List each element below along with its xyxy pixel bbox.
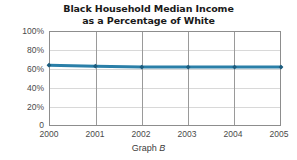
y-tick-label-80: 80% — [0, 46, 44, 55]
gridline-y-40 — [50, 88, 280, 89]
x-tick-label-2001: 2001 — [75, 129, 115, 139]
gridline-y-20 — [50, 107, 280, 108]
y-tick-label-40: 40% — [0, 84, 44, 93]
graph-caption-prefix: Graph — [132, 143, 157, 153]
gridline-x-2004 — [234, 32, 235, 125]
chart-title-line-1: Black Household Median Income — [0, 3, 297, 15]
y-tick-label-20: 20% — [0, 103, 44, 112]
gridline-y-80 — [50, 50, 280, 51]
graph-caption: Graph B — [0, 143, 297, 154]
x-tick-label-2003: 2003 — [167, 129, 207, 139]
graph-caption-label: B — [159, 143, 165, 153]
x-tick-label-2000: 2000 — [29, 129, 69, 139]
plot-area — [49, 31, 281, 126]
x-tick-label-2005: 2005 — [259, 129, 297, 139]
chart-title: Black Household Median Income as a Perce… — [0, 3, 297, 27]
gridline-x-2001 — [96, 32, 97, 125]
y-tick-label-100: 100% — [0, 27, 44, 36]
x-tick-label-2004: 2004 — [213, 129, 253, 139]
gridline-y-60 — [50, 69, 280, 70]
x-tick-label-2002: 2002 — [121, 129, 161, 139]
gridline-x-2002 — [142, 32, 143, 125]
chart-figure: Black Household Median Income as a Perce… — [0, 0, 297, 160]
chart-title-line-2: as a Percentage of White — [0, 15, 297, 27]
y-tick-label-60: 60% — [0, 65, 44, 74]
gridline-x-2003 — [188, 32, 189, 125]
